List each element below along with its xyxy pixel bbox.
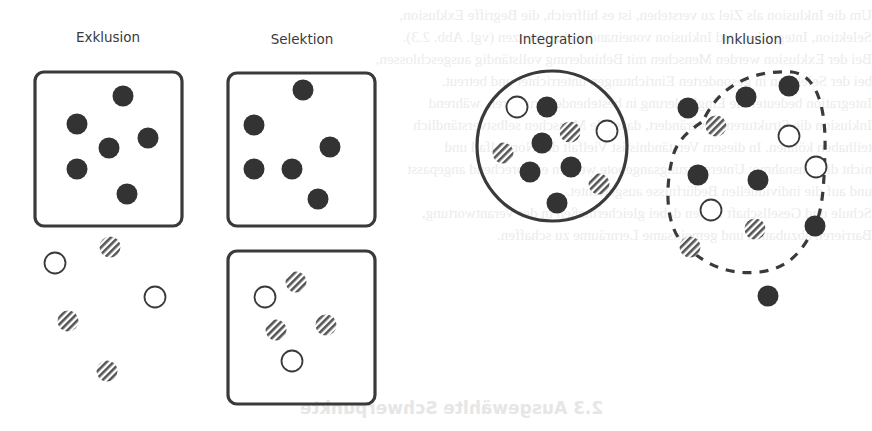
hollow-dot	[597, 121, 618, 142]
filled-dot	[736, 87, 757, 108]
filled-dot	[805, 216, 826, 237]
filled-dot	[293, 80, 314, 101]
hollow-dot	[145, 287, 166, 308]
title-integration: Integration	[519, 31, 593, 47]
title-inklusion: Inklusion	[722, 31, 782, 47]
filled-dot	[520, 162, 541, 183]
filled-dot	[748, 170, 769, 191]
filled-dot	[547, 193, 568, 214]
filled-dot	[67, 159, 88, 180]
panel-exklusion	[35, 72, 182, 382]
title-exklusion: Exklusion	[76, 29, 140, 45]
hollow-dot	[45, 253, 66, 274]
hatched-dot	[286, 272, 307, 293]
filled-dot	[138, 128, 159, 149]
panel-integration	[477, 71, 627, 221]
filled-dot	[758, 286, 779, 307]
filled-dot	[113, 86, 134, 107]
hatched-dot	[100, 237, 121, 258]
hollow-dot	[507, 97, 528, 118]
hatched-dot	[97, 361, 118, 382]
filled-dot	[678, 98, 699, 119]
hollow-dot	[701, 200, 722, 221]
hatched-dot	[706, 116, 727, 137]
filled-dot	[67, 114, 88, 135]
hatched-dot	[266, 320, 287, 341]
hatched-dot	[745, 219, 766, 240]
hollow-dot	[779, 126, 800, 147]
filled-dot	[561, 157, 582, 178]
filled-dot	[688, 165, 709, 186]
hatched-dot	[316, 315, 337, 336]
hatched-dot	[493, 143, 514, 164]
filled-dot	[308, 189, 329, 210]
filled-dot	[244, 115, 265, 136]
title-selektion: Selektion	[271, 31, 334, 47]
filled-dot	[537, 97, 558, 118]
filled-dot	[99, 138, 120, 159]
hatched-dot	[58, 311, 79, 332]
filled-dot	[532, 133, 553, 154]
hatched-dot	[560, 122, 581, 143]
hollow-dot	[255, 287, 276, 308]
hollow-dot	[806, 157, 827, 178]
panel-selektion	[228, 73, 375, 404]
hatched-dot	[680, 237, 701, 258]
filled-dot	[117, 184, 138, 205]
filled-dot	[779, 76, 800, 97]
filled-dot	[320, 137, 341, 158]
panel-inklusion	[668, 72, 827, 307]
filled-dot	[282, 159, 303, 180]
hollow-dot	[282, 351, 303, 372]
filled-dot	[244, 159, 265, 180]
hatched-dot	[589, 174, 610, 195]
